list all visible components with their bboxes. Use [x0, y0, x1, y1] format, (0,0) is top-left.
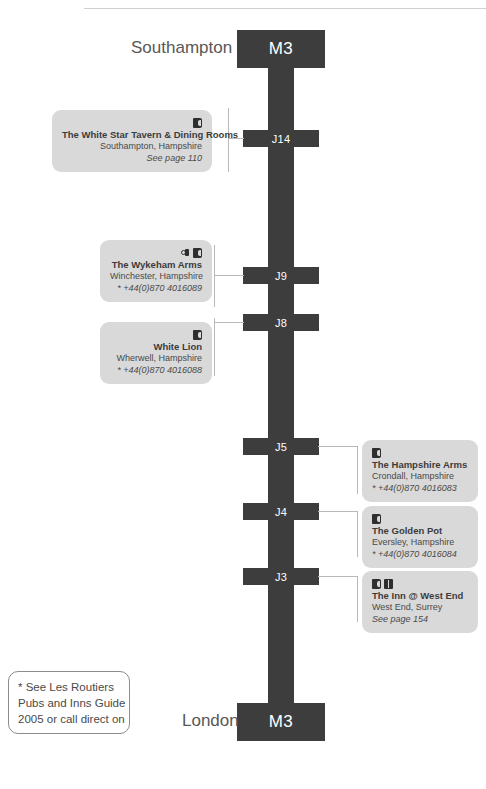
junction-label: J4: [275, 505, 287, 517]
callout-white-star-tavern[interactable]: The White Star Tavern & Dining Rooms Sou…: [52, 110, 212, 172]
motorway-shield-bottom-label: M3: [269, 712, 294, 732]
leader-line-j3: [318, 576, 358, 577]
junction-marker-j5[interactable]: J5: [243, 438, 319, 455]
callout-name: The Hampshire Arms: [372, 459, 468, 471]
book-icon: [384, 579, 393, 589]
junction-label: J8: [275, 316, 287, 328]
leader-bracket-j14: [228, 108, 229, 172]
callout-icons: [372, 578, 468, 589]
callout-name: The Golden Pot: [372, 525, 468, 537]
leader-bracket-j9: [214, 245, 215, 307]
callout-name: The Wykeham Arms: [110, 259, 202, 271]
bed-icon: [372, 448, 381, 458]
callout-icons: [62, 117, 202, 128]
footnote-line-3: 2005 or call direct on: [18, 711, 120, 727]
callout-detail: * +44(0)870 4016089: [110, 283, 202, 295]
city-label-southampton: Southampton: [131, 38, 232, 58]
motorway-map: M3 M3 Southampton London J14 J9 J8 J5 J4…: [0, 0, 486, 789]
motorway-shield-top-label: M3: [269, 39, 294, 59]
callout-place: Southampton, Hampshire: [62, 141, 202, 153]
footnote-line-2: Pubs and Inns Guide: [18, 695, 120, 711]
callout-detail: See page 110: [62, 153, 202, 165]
callout-icons: [372, 513, 468, 524]
callout-white-lion[interactable]: White Lion Wherwell, Hampshire * +44(0)8…: [100, 322, 212, 384]
motorway-shield-bottom: M3: [237, 703, 325, 741]
callout-detail: * +44(0)870 4016083: [372, 483, 468, 495]
junction-marker-j3[interactable]: J3: [243, 568, 319, 585]
junction-label: J3: [275, 570, 287, 582]
leader-bracket-j3: [357, 576, 358, 622]
bed-icon: [372, 514, 381, 524]
callout-detail: See page 154: [372, 614, 468, 626]
junction-marker-j4[interactable]: J4: [243, 503, 319, 520]
fork-icon: [181, 248, 190, 258]
bed-icon: [193, 330, 202, 340]
footnote-line-1: * See Les Routiers: [18, 679, 120, 695]
leader-line-j5: [318, 446, 358, 447]
junction-marker-j14[interactable]: J14: [243, 130, 319, 147]
junction-marker-j9[interactable]: J9: [243, 267, 319, 284]
callout-place: Wherwell, Hampshire: [110, 353, 202, 365]
junction-marker-j8[interactable]: J8: [243, 314, 319, 331]
leader-bracket-j5: [357, 446, 358, 494]
callout-hampshire-arms[interactable]: The Hampshire Arms Crondall, Hampshire *…: [362, 440, 478, 502]
motorway-shield-top: M3: [237, 30, 325, 68]
callout-golden-pot[interactable]: The Golden Pot Eversley, Hampshire * +44…: [362, 506, 478, 568]
callout-place: Winchester, Hampshire: [110, 271, 202, 283]
bed-icon: [193, 248, 202, 258]
bed-icon: [193, 118, 202, 128]
callout-name: The Inn @ West End: [372, 590, 468, 602]
junction-label: J9: [275, 269, 287, 281]
callout-wykeham-arms[interactable]: The Wykeham Arms Winchester, Hampshire *…: [100, 240, 212, 302]
callout-detail: * +44(0)870 4016084: [372, 549, 468, 561]
leader-line-j4: [318, 511, 358, 512]
leader-bracket-j4: [357, 511, 358, 557]
bed-icon: [372, 579, 381, 589]
callout-place: Crondall, Hampshire: [372, 471, 468, 483]
callout-icons: [110, 329, 202, 340]
callout-icons: [110, 247, 202, 258]
callout-inn-at-west-end[interactable]: The Inn @ West End West End, Surrey See …: [362, 571, 478, 633]
callout-place: West End, Surrey: [372, 602, 468, 614]
motorway-trunk: [268, 60, 294, 705]
leader-line-j9: [214, 275, 244, 276]
top-divider-rule: [84, 8, 486, 9]
callout-name: White Lion: [110, 341, 202, 353]
callout-place: Eversley, Hampshire: [372, 537, 468, 549]
callout-name: The White Star Tavern & Dining Rooms: [62, 129, 202, 141]
city-label-london: London: [182, 711, 239, 731]
junction-label: J5: [275, 440, 287, 452]
leader-bracket-j8: [214, 318, 215, 376]
leader-line-j8: [214, 322, 244, 323]
junction-label: J14: [272, 132, 291, 144]
callout-detail: * +44(0)870 4016088: [110, 365, 202, 377]
footnote-box: * See Les Routiers Pubs and Inns Guide 2…: [8, 671, 130, 734]
callout-icons: [372, 447, 468, 458]
